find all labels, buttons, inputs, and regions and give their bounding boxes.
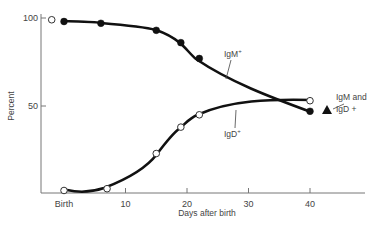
igm-curve bbox=[65, 21, 311, 112]
data-markers bbox=[48, 16, 313, 193]
x-tick-label: 40 bbox=[305, 199, 315, 209]
svg-text:IgD +: IgD + bbox=[336, 104, 357, 114]
open-circle-marker bbox=[196, 112, 203, 119]
svg-text:IgM and: IgM and bbox=[336, 92, 367, 102]
x-tick-label: Birth bbox=[55, 199, 74, 209]
igm-igd-label: IgM and IgD + bbox=[322, 92, 367, 114]
filled-circle-marker bbox=[307, 108, 314, 115]
igd-curve bbox=[67, 100, 313, 192]
filled-circle-marker bbox=[61, 18, 68, 25]
filled-circle-marker bbox=[153, 27, 160, 34]
open-circle-marker bbox=[104, 185, 111, 192]
svg-text:IgM+: IgM+ bbox=[224, 48, 242, 59]
filled-circle-marker bbox=[196, 55, 203, 62]
filled-circle-marker bbox=[98, 20, 105, 27]
y-tick-label: 100 bbox=[23, 13, 38, 23]
igd-label: IgD+ bbox=[224, 110, 241, 139]
filled-circle-marker bbox=[177, 39, 184, 46]
open-circle-marker bbox=[153, 150, 160, 157]
y-ticks: 50100 bbox=[23, 13, 46, 111]
open-circle-marker bbox=[178, 124, 185, 131]
x-tick-label: 30 bbox=[243, 199, 253, 209]
x-axis-title: Days after birth bbox=[178, 208, 236, 218]
svg-text:IgD+: IgD+ bbox=[224, 128, 241, 139]
y-tick-label: 50 bbox=[28, 101, 38, 111]
open-circle-marker bbox=[61, 187, 68, 194]
igm-label: IgM+ bbox=[224, 48, 242, 79]
x-tick-label: 10 bbox=[120, 199, 130, 209]
open-circle-marker bbox=[307, 97, 314, 104]
y-axis-title: Percent bbox=[6, 91, 16, 121]
chart: 50100 Birth10203040 Percent Days after b… bbox=[0, 0, 378, 231]
open-circle-marker bbox=[48, 16, 55, 23]
filled-triangle-marker bbox=[322, 105, 332, 114]
